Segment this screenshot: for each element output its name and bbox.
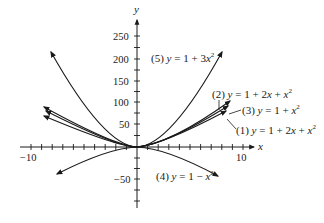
- curve-1: [44, 111, 226, 147]
- label-curve-3: (3) y = 1 + x2: [242, 104, 300, 116]
- y-tick-100: 100: [113, 97, 129, 108]
- label-curve-1: (1) y = 1 + 2x + x2: [236, 124, 316, 136]
- x-axis-label: x: [258, 140, 263, 152]
- x-tick-10: 10: [236, 152, 247, 163]
- y-tick-neg50: −50: [114, 174, 130, 185]
- label-curve-2: (2) y = 1 + 2x + x2: [212, 88, 292, 100]
- y-tick-250: 250: [113, 31, 129, 42]
- y-tick-200: 200: [113, 54, 129, 65]
- leader-1: [227, 119, 236, 129]
- x-tick-neg10: −10: [20, 152, 36, 163]
- y-axis-label: y: [134, 3, 139, 15]
- y-tick-150: 150: [113, 76, 129, 87]
- y-tick-50: 50: [119, 119, 130, 130]
- leader-3: [229, 110, 241, 114]
- label-curve-5: (5) y = 1 + 3x2: [151, 52, 214, 64]
- y-axis: [134, 20, 140, 208]
- label-curve-4: (4) y = 1 − x2: [156, 170, 214, 182]
